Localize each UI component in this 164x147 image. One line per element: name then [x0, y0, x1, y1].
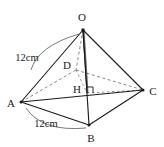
geometry-figure: O D C A H B 12cm 12cm: [0, 0, 164, 147]
vertex-label-A: A: [7, 98, 15, 109]
vertex-label-O: O: [78, 12, 86, 23]
vertex-label-H: H: [73, 84, 81, 95]
vertex-label-C: C: [149, 86, 156, 97]
vertex-dot-O: [81, 28, 84, 31]
vertex-label-B: B: [87, 133, 94, 144]
height-OH: [83, 30, 87, 93]
vertex-dots-group: [20, 28, 145, 126]
edge-OD-dashed: [76, 30, 83, 70]
vertex-dot-B: [88, 124, 91, 127]
diagonal-AC: [21, 90, 143, 102]
edge-BC: [89, 90, 143, 125]
hidden-edges-group: [21, 30, 143, 102]
vertex-label-D: D: [63, 60, 71, 71]
dimension-label-edge-AB: 12cm: [34, 119, 57, 130]
visible-edges-group: [21, 30, 143, 125]
vertex-dot-C: [142, 89, 145, 92]
vertex-dot-A: [20, 101, 23, 104]
dimension-label-edge-OA: 12cm: [15, 53, 38, 64]
